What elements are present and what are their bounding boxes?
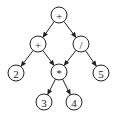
edge-arrow bbox=[86, 51, 97, 66]
node-plus-top: + bbox=[51, 7, 67, 23]
node-two: 2 bbox=[8, 65, 24, 81]
node-label: 5 bbox=[98, 68, 104, 80]
node-label: + bbox=[56, 10, 62, 22]
node-three: 3 bbox=[36, 94, 52, 110]
edge-arrow bbox=[43, 50, 54, 65]
node-label: 2 bbox=[13, 68, 19, 80]
edge-arrow bbox=[64, 50, 76, 65]
edges-group bbox=[21, 21, 96, 94]
edge-arrow bbox=[48, 79, 56, 94]
node-four: 4 bbox=[66, 94, 82, 110]
node-plus-left: + bbox=[30, 36, 46, 52]
node-label: * bbox=[56, 67, 62, 79]
node-label: 3 bbox=[41, 97, 47, 109]
node-div: / bbox=[73, 36, 89, 52]
expression-dag-diagram: ++/2*534 bbox=[0, 0, 115, 117]
edge-arrow bbox=[63, 79, 71, 94]
edge-arrow bbox=[64, 21, 76, 37]
node-mul: * bbox=[51, 64, 67, 80]
node-five: 5 bbox=[93, 65, 109, 81]
node-label: + bbox=[35, 39, 41, 51]
edge-arrow bbox=[43, 21, 54, 37]
nodes-group: ++/2*534 bbox=[8, 7, 109, 110]
node-label: 4 bbox=[71, 97, 77, 109]
edge-arrow bbox=[21, 50, 33, 66]
